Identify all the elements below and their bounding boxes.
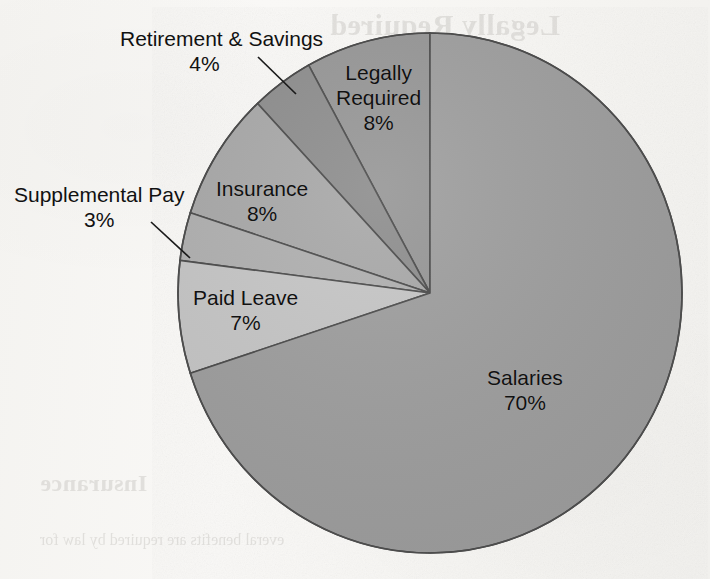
pie-label-retirement-savings: Retirement & Savings 4% [120, 26, 323, 76]
pie-label-paid-leave-name: Paid Leave [193, 285, 298, 310]
pie-label-legally-required-line2: Required [336, 85, 421, 110]
pie-label-salaries-name: Salaries [487, 365, 563, 390]
pie-label-legally-required: Legally Required 8% [336, 60, 421, 135]
pie-label-salaries-percent: 70% [487, 390, 563, 415]
pie-label-legally-required-line1: Legally [336, 60, 421, 85]
pie-label-insurance: Insurance 8% [216, 176, 308, 226]
pie-label-insurance-name: Insurance [216, 176, 308, 201]
pie-chart: Retirement & Savings 4% Legally Required… [0, 0, 710, 579]
pie-label-retirement-savings-percent: 4% [86, 51, 323, 76]
pie-label-paid-leave-percent: 7% [193, 310, 298, 335]
pie-label-supplemental-pay-percent: 3% [14, 207, 184, 232]
pie-label-insurance-percent: 8% [216, 201, 308, 226]
pie-label-retirement-savings-name: Retirement & Savings [120, 26, 323, 51]
pie-label-legally-required-percent: 8% [336, 110, 421, 135]
pie-label-salaries: Salaries 70% [487, 365, 563, 415]
pie-label-supplemental-pay: Supplemental Pay 3% [14, 182, 184, 232]
pie-label-supplemental-pay-name: Supplemental Pay [14, 182, 184, 207]
pie-label-paid-leave: Paid Leave 7% [193, 285, 298, 335]
